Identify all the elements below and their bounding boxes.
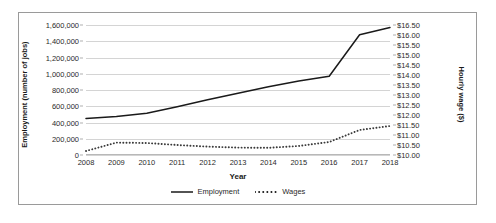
y-axis-right-tick-mark: [393, 105, 396, 106]
y-axis-left-tick-label: 400,000: [52, 118, 79, 127]
legend-swatch-dotted: [255, 188, 277, 196]
y-axis-right-tick-label: $15.50: [397, 41, 420, 50]
series-line-wages: [86, 126, 390, 151]
y-axis-right-ticks: $10.00$10.50$11.00$11.50$12.00$12.50$13.…: [393, 25, 441, 155]
y-axis-left-tick-label: 1,000,000: [46, 69, 79, 78]
x-axis-tick-label: 2017: [351, 158, 368, 167]
gridline: [86, 155, 390, 156]
y-axis-right-tick-mark: [393, 145, 396, 146]
y-axis-right-tick-label: $10.00: [397, 151, 420, 160]
legend-entry-employment[interactable]: Employment: [171, 187, 240, 196]
y-axis-left-tick-mark: [80, 57, 83, 58]
x-axis-tick-label: 2016: [321, 158, 338, 167]
x-axis-tick-label: 2013: [230, 158, 247, 167]
y-axis-right-tick-mark: [393, 75, 396, 76]
legend-entry-wages[interactable]: Wages: [255, 187, 305, 196]
y-axis-right-title: Hourly wage ($): [457, 30, 466, 160]
series-plot: [86, 25, 390, 155]
y-axis-right-tick-label: $12.50: [397, 101, 420, 110]
x-axis-tick-label: 2012: [199, 158, 216, 167]
chart-container: Employment (number of jobs) Hourly wage …: [0, 0, 496, 223]
y-axis-left-tick-label: 1,600,000: [46, 21, 79, 30]
y-axis-right-tick-label: $13.00: [397, 91, 420, 100]
y-axis-right-tick-mark: [393, 155, 396, 156]
x-axis-ticks: 2008200920102011201220132014201520162017…: [86, 158, 390, 172]
y-axis-left-tick-mark: [80, 73, 83, 74]
x-axis-tick-label: 2015: [290, 158, 307, 167]
x-axis-tick-label: 2009: [108, 158, 125, 167]
y-axis-left-tick-mark: [80, 41, 83, 42]
x-axis-tick-label: 2008: [78, 158, 95, 167]
y-axis-right-tick-mark: [393, 25, 396, 26]
y-axis-right-tick-label: $16.50: [397, 21, 420, 30]
y-axis-left-tick-mark: [80, 106, 83, 107]
y-axis-right-tick-label: $10.50: [397, 141, 420, 150]
y-axis-right-tick-label: $16.00: [397, 31, 420, 40]
y-axis-right-tick-label: $14.50: [397, 61, 420, 70]
y-axis-right-tick-mark: [393, 55, 396, 56]
y-axis-right-tick-mark: [393, 125, 396, 126]
y-axis-right-tick-mark: [393, 135, 396, 136]
y-axis-right-tick-label: $11.00: [397, 131, 419, 140]
y-axis-left-tick-label: 800,000: [52, 86, 79, 95]
y-axis-right-tick-label: $12.00: [397, 111, 420, 120]
y-axis-left-tick-label: 200,000: [52, 134, 79, 143]
y-axis-right-tick-mark: [393, 35, 396, 36]
x-axis-tick-label: 2014: [260, 158, 277, 167]
y-axis-right-tick-label: $14.00: [397, 71, 420, 80]
y-axis-right-tick-mark: [393, 85, 396, 86]
y-axis-left-tick-mark: [80, 122, 83, 123]
y-axis-right-tick-label: $15.00: [397, 51, 420, 60]
plot-area: [86, 25, 390, 155]
chart-legend: EmploymentWages: [86, 187, 390, 196]
y-axis-left-ticks: 0200,000400,000600,000800,0001,000,0001,…: [28, 25, 83, 155]
series-line-employment: [86, 27, 390, 118]
x-axis-tick-label: 2010: [138, 158, 155, 167]
y-axis-left-tick-mark: [80, 138, 83, 139]
y-axis-left-tick-label: 1,200,000: [46, 53, 79, 62]
x-axis-tick-label: 2011: [169, 158, 185, 167]
y-axis-right-tick-mark: [393, 95, 396, 96]
y-axis-left-tick-mark: [80, 25, 83, 26]
legend-swatch-solid: [171, 188, 193, 196]
legend-label: Wages: [282, 187, 305, 196]
legend-label: Employment: [198, 187, 240, 196]
y-axis-right-tick-mark: [393, 45, 396, 46]
x-axis-title: Year: [86, 172, 390, 181]
y-axis-right-tick-label: $13.50: [397, 81, 420, 90]
y-axis-right-tick-mark: [393, 65, 396, 66]
x-axis-tick-label: 2018: [382, 158, 399, 167]
y-axis-right-tick-mark: [393, 115, 396, 116]
y-axis-right-tick-label: $11.50: [397, 121, 419, 130]
y-axis-left-tick-mark: [80, 90, 83, 91]
y-axis-left-tick-mark: [80, 155, 83, 156]
y-axis-left-tick-label: 600,000: [52, 102, 79, 111]
y-axis-left-tick-label: 1,400,000: [46, 37, 79, 46]
